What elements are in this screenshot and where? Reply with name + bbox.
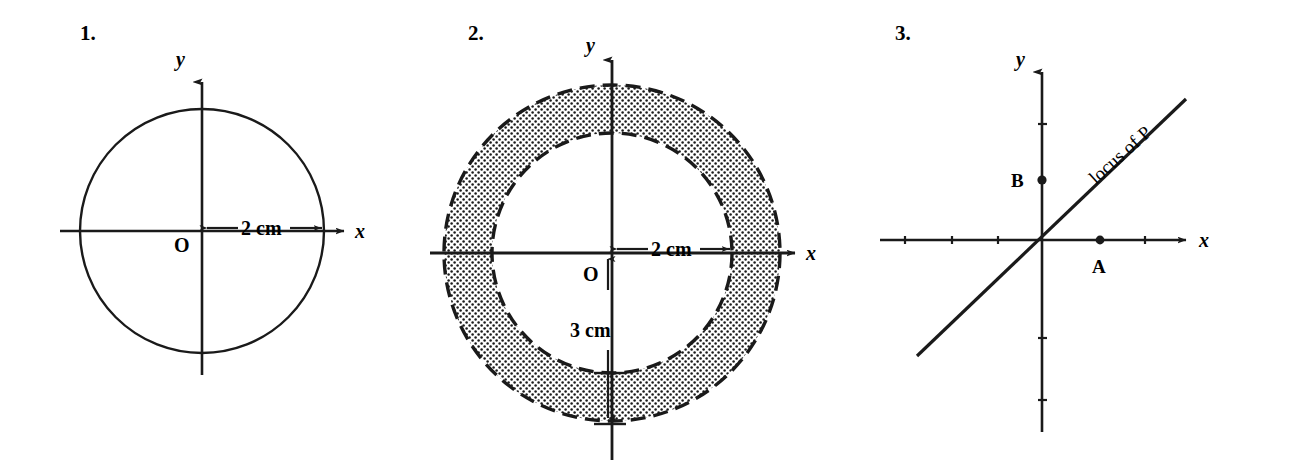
y-axis-label: y <box>174 48 185 71</box>
x-axis-label: x <box>1198 229 1209 251</box>
point-b-label: B <box>1011 170 1024 191</box>
x-axis-label: x <box>805 242 816 264</box>
y-axis-label: y <box>1014 48 1025 71</box>
inner-radius-dimension-label: 2 cm <box>651 238 692 260</box>
outer-radius-dimension-label: 3 cm <box>570 319 611 341</box>
point-a-label: A <box>1092 256 1106 277</box>
figure-3: 3. x y A <box>850 0 1299 464</box>
origin-label: O <box>174 234 190 256</box>
figure-2: 2. x y O 2 cm 3 cm <box>430 0 850 464</box>
origin-label: O <box>583 263 599 285</box>
figure-number: 1. <box>80 21 96 45</box>
y-axis-label: y <box>584 34 595 57</box>
figure-1: 1. x y O 2 cm <box>0 0 430 464</box>
radius-dimension-label: 2 cm <box>241 217 282 239</box>
point-b-marker <box>1037 175 1046 184</box>
x-axis-label: x <box>354 220 365 242</box>
locus-of-p-label: locus of P <box>1085 122 1156 188</box>
figure-number: 3. <box>895 21 911 45</box>
point-a-marker <box>1096 236 1105 245</box>
figure-sheet: 1. x y O 2 cm <box>0 0 1299 464</box>
